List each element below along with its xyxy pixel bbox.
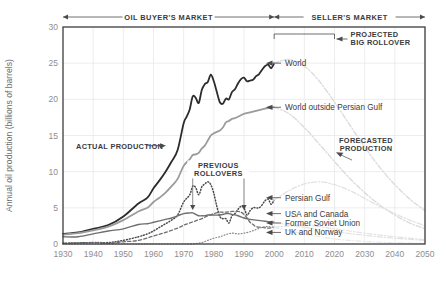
sellers-market-arrow-right xyxy=(420,14,425,19)
x-tick-label: 2050 xyxy=(416,249,435,259)
callout-arrow-uk-and-norway xyxy=(266,230,273,235)
previous-rollovers-label-line2: ROLLOVERS xyxy=(194,169,243,178)
x-tick-label: 2000 xyxy=(265,249,284,259)
y-tick-label: 10 xyxy=(49,167,59,177)
forecasted-production-label-line2: PRODUCTION xyxy=(340,144,393,153)
y-tick-label: 5 xyxy=(53,203,58,213)
x-tick-label: 1980 xyxy=(204,249,223,259)
y-axis-title: Annual oil production (billions of barre… xyxy=(4,59,14,212)
oil-buyers-market-label: OIL BUYER'S MARKET xyxy=(124,13,213,22)
series-label-world: World xyxy=(285,59,307,68)
y-tick-label: 20 xyxy=(49,94,59,104)
projected-rollover-label-line2: BIG ROLLOVER xyxy=(351,38,411,47)
series-label-world-outside-persian-gulf: World outside Persian Gulf xyxy=(285,103,383,112)
series-line-former-soviet-union xyxy=(63,211,274,243)
y-tick-label: 0 xyxy=(53,239,58,249)
x-tick-label: 1970 xyxy=(174,249,193,259)
x-tick-label: 1950 xyxy=(114,249,133,259)
x-tick-label: 1990 xyxy=(235,249,254,259)
x-tick-label: 2010 xyxy=(295,249,314,259)
actual-production-label: ACTUAL PRODUCTION xyxy=(76,142,163,151)
x-tick-label: 1930 xyxy=(54,249,73,259)
y-tick-label: 30 xyxy=(49,22,59,32)
sellers-market-arrow-left xyxy=(274,14,279,19)
forecasted-production-arrow xyxy=(336,152,343,157)
series-label-uk-and-norway: UK and Norway xyxy=(285,228,343,237)
series-label-former-soviet-union: Former Soviet Union xyxy=(285,219,361,228)
sellers-market-label: SELLER'S MARKET xyxy=(311,13,387,22)
x-tick-label: 2040 xyxy=(385,249,404,259)
y-tick-label: 25 xyxy=(49,58,59,68)
x-tick-label: 2030 xyxy=(355,249,374,259)
oil-buyers-market-arrow-left xyxy=(63,14,68,19)
callout-arrow-usa-and-canada xyxy=(266,211,273,216)
series-label-usa-and-canada: USA and Canada xyxy=(285,210,349,219)
projected-rollover-arrow xyxy=(337,37,343,42)
x-tick-label: 1940 xyxy=(84,249,103,259)
chart-figure: 1930194019501960197019801990200020102020… xyxy=(0,0,446,281)
callout-arrow-persian-gulf xyxy=(266,195,273,200)
y-tick-label: 15 xyxy=(49,131,59,141)
series-label-persian-gulf: Persian Gulf xyxy=(285,194,331,203)
oil-production-chart: 1930194019501960197019801990200020102020… xyxy=(0,0,446,281)
x-tick-label: 1960 xyxy=(144,249,163,259)
oil-buyers-market-arrow-right xyxy=(269,14,274,19)
x-tick-label: 2020 xyxy=(325,249,344,259)
